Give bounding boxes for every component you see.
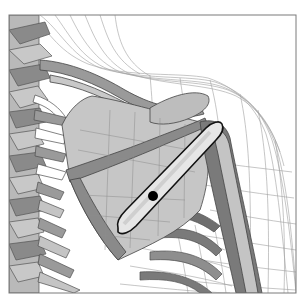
marker-dot: [148, 191, 158, 201]
anatomy-render-viewport: 3D shoulder model: spine, rib cage, clav…: [0, 0, 308, 302]
